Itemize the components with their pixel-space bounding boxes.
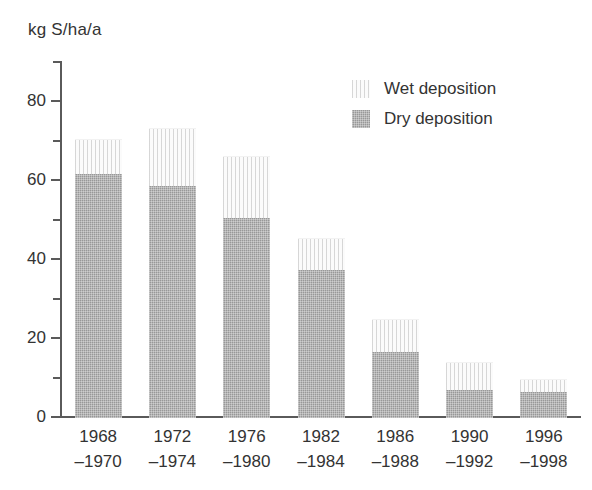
x-axis-category-label-line: 1976 [206,424,288,449]
x-axis-category-label: 1996–1998 [503,424,585,474]
y-tick-label: 20 [0,328,46,348]
y-tick-label: 60 [0,170,46,190]
bar-segment-dry-deposition [372,352,419,418]
x-axis-category-label-line: –1984 [280,449,362,474]
x-axis-category-label-line: –1998 [503,449,585,474]
x-axis-category-label: 1986–1988 [354,424,436,474]
bar-group [149,62,196,418]
bar-segment-wet-deposition [149,128,196,186]
x-axis-category-label-line: 1996 [503,424,585,449]
bar-segment-wet-deposition [223,156,270,219]
y-tick-major [51,258,60,260]
y-tick-label: 40 [0,249,46,269]
bar-segment-dry-deposition [149,186,196,418]
legend-item-label: Dry deposition [384,109,493,129]
y-tick-major [51,416,60,418]
y-tick-label: 80 [0,91,46,111]
bar-segment-dry-deposition [520,392,567,418]
y-axis-unit-label: kg S/ha/a [28,20,102,40]
y-tick-major [51,100,60,102]
x-axis-category-label: 1968–1970 [57,424,139,474]
bar-segment-wet-deposition [446,362,493,391]
bar-group [298,62,345,418]
x-axis-category-label-line: –1992 [428,449,510,474]
bar-group [520,62,567,418]
x-axis-category-label: 1990–1992 [428,424,510,474]
x-axis-category-label: 1972–1974 [131,424,213,474]
y-tick-minor [53,298,60,300]
y-tick-major [51,179,60,181]
bar-segment-dry-deposition [298,270,345,418]
wet-deposition-swatch [352,80,370,98]
y-tick-minor [53,61,60,63]
y-tick-major [51,337,60,339]
bar-segment-wet-deposition [298,238,345,270]
legend-item: Wet deposition [352,74,496,104]
bar-segment-wet-deposition [75,139,122,175]
x-axis-category-label: 1976–1980 [206,424,288,474]
x-axis-category-label-line: –1980 [206,449,288,474]
y-tick-minor [53,219,60,221]
x-axis-category-label-line: –1988 [354,449,436,474]
x-axis-category-label-line: –1974 [131,449,213,474]
y-tick-label: 0 [0,407,46,427]
legend-item-label: Wet deposition [384,79,496,99]
x-axis-category-label: 1982–1984 [280,424,362,474]
x-axis-category-label-line: 1990 [428,424,510,449]
bar-segment-dry-deposition [75,174,122,418]
bar-segment-wet-deposition [520,379,567,392]
y-tick-minor [53,377,60,379]
bar-group [223,62,270,418]
bar-group [75,62,122,418]
x-axis-category-label-line: –1970 [57,449,139,474]
y-tick-minor [53,140,60,142]
bar-segment-dry-deposition [223,218,270,418]
dry-deposition-swatch [352,110,370,128]
chart-legend: Wet depositionDry deposition [352,74,496,134]
x-axis-category-label-line: 1968 [57,424,139,449]
bar-segment-wet-deposition [372,319,419,352]
x-axis-category-label-line: 1982 [280,424,362,449]
plot-area [61,62,581,418]
sulfur-deposition-bar-chart: kg S/ha/a 020406080 1968–19701972–197419… [0,0,592,490]
x-axis-category-label-line: 1972 [131,424,213,449]
x-axis-category-label-line: 1986 [354,424,436,449]
bar-segment-dry-deposition [446,390,493,418]
legend-item: Dry deposition [352,104,496,134]
